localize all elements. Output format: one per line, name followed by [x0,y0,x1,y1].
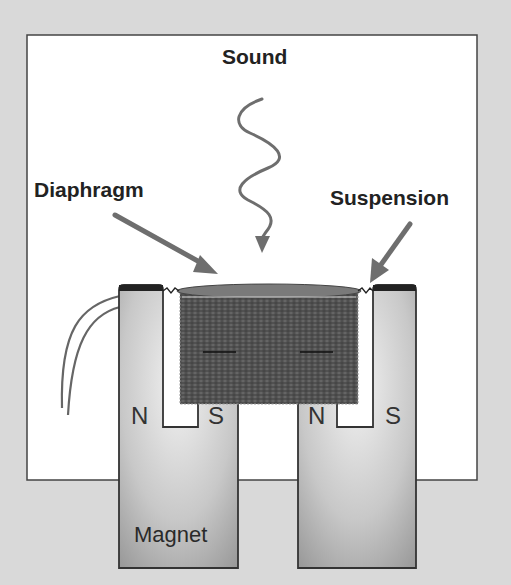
magnet-label: Magnet [134,522,207,548]
pole-left-inner-s: S [208,402,224,430]
sound-label: Sound [222,45,287,69]
pole-right-outer-s: S [385,402,401,430]
diagram-canvas [0,0,511,585]
pole-right-inner-n: N [308,402,325,430]
diaphragm [177,284,361,298]
right-pole-cap [373,285,416,291]
diaphragm-label: Diaphragm [34,178,144,202]
left-pole-cap [119,285,163,291]
voice-coil [180,292,358,404]
speaker-diagram: Sound Diaphragm Suspension N S N S Magne… [0,0,511,585]
suspension-label: Suspension [330,186,449,210]
pole-left-outer-n: N [131,402,148,430]
